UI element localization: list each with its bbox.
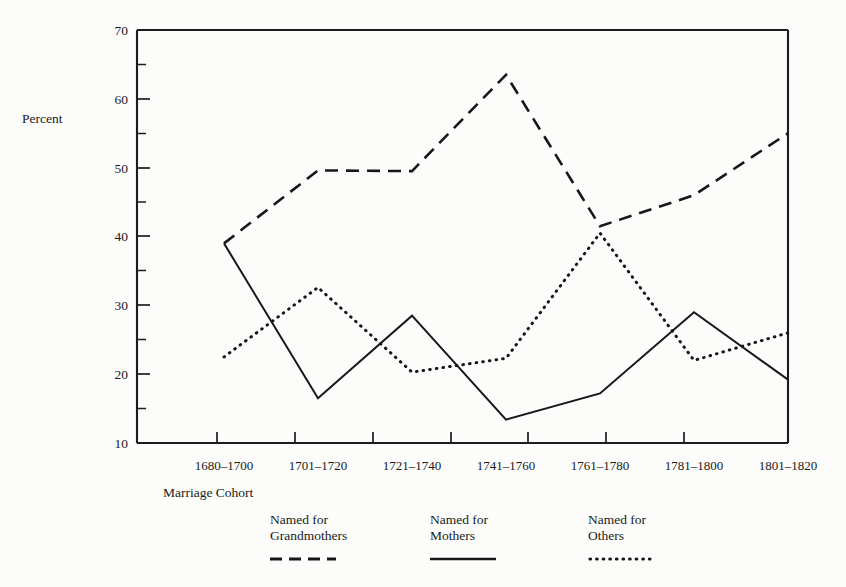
y-tick-label: 30 [115, 298, 129, 313]
legend: Named for Grandmothers Named for Mothers… [270, 512, 651, 559]
x-tick-label: 1781–1800 [665, 458, 724, 473]
x-tick-label: 1761–1780 [571, 458, 630, 473]
legend-item-others: Named for Others [588, 512, 651, 559]
y-tick-label: 40 [115, 229, 129, 244]
legend-label-line1: Named for [588, 512, 647, 527]
y-axis-title: Percent [22, 111, 63, 126]
line-chart: Percent 70 60 50 [0, 0, 846, 587]
series-line-mothers [224, 243, 788, 419]
y-axis-major-ticks [137, 30, 150, 443]
legend-label-line2: Mothers [430, 528, 475, 543]
x-axis-ticks [217, 432, 684, 443]
y-axis-tick-labels: 70 60 50 40 30 20 10 [115, 23, 129, 451]
legend-label-line1: Named for [430, 512, 489, 527]
x-tick-label: 1741–1760 [477, 458, 536, 473]
legend-label-line2: Grandmothers [270, 528, 347, 543]
y-tick-label: 60 [115, 92, 129, 107]
x-axis-tick-labels: 1680–1700 1701–1720 1721–1740 1741–1760 … [195, 458, 818, 473]
series-line-grandmothers [224, 75, 788, 244]
x-tick-label: 1801–1820 [759, 458, 818, 473]
x-tick-label: 1701–1720 [289, 458, 348, 473]
y-tick-label: 20 [115, 367, 129, 382]
legend-item-mothers: Named for Mothers [430, 512, 496, 559]
legend-label-line1: Named for [270, 512, 329, 527]
x-axis-title: Marriage Cohort [163, 485, 254, 500]
series-line-others [224, 233, 788, 372]
y-tick-label: 70 [115, 23, 129, 38]
y-tick-label: 50 [115, 161, 129, 176]
legend-label-line2: Others [588, 528, 624, 543]
x-tick-label: 1680–1700 [195, 458, 254, 473]
chart-page: Percent 70 60 50 [0, 0, 846, 587]
y-tick-label: 10 [115, 436, 129, 451]
x-tick-label: 1721–1740 [383, 458, 442, 473]
legend-item-grandmothers: Named for Grandmothers [270, 512, 347, 559]
